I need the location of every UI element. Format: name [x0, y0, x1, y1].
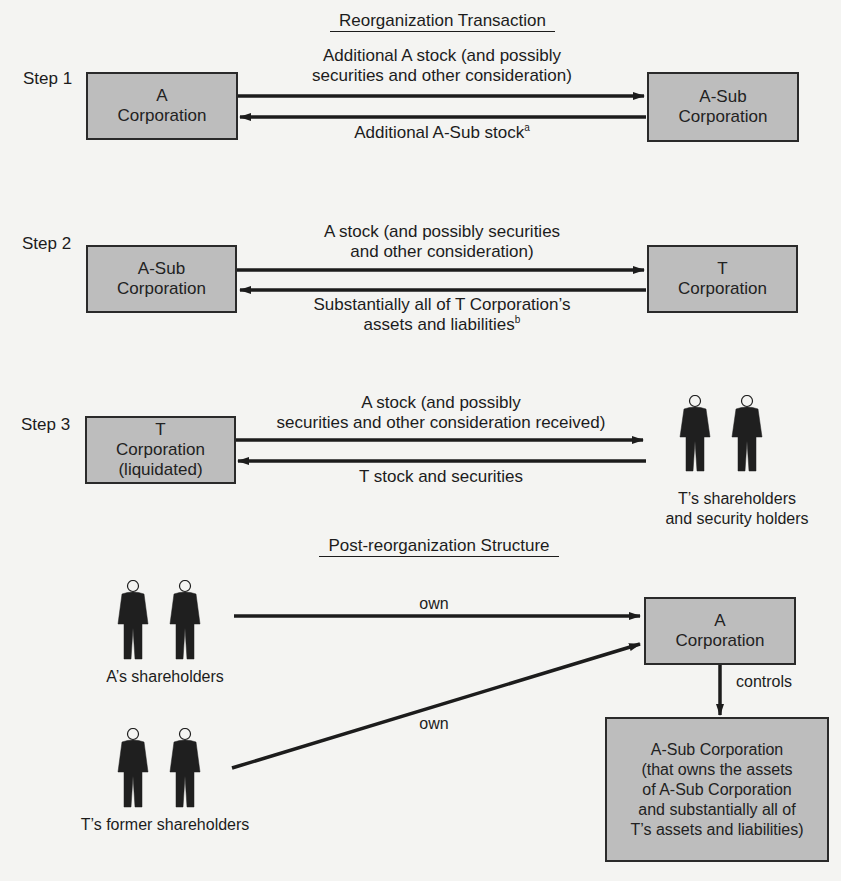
box-line: Corporation	[678, 279, 767, 299]
label-text: Additional A-Sub stock	[354, 123, 524, 142]
post-a-corporation-box: ACorporation	[644, 597, 796, 665]
box-line: A-Sub	[117, 259, 206, 279]
step1-bottom-arrow-label: Additional A-Sub stocka	[238, 123, 646, 143]
box-line: and substantially all of	[630, 800, 803, 820]
t-shareholders-caption: T’s shareholders and security holders	[637, 489, 837, 529]
step-2-label: Step 2	[22, 234, 71, 254]
caption-line: and security holders	[637, 509, 837, 529]
heading-post-reorganization-structure: Post-reorganization Structure	[319, 536, 559, 557]
box-line: T	[116, 420, 205, 440]
t-former-shareholders-caption: T’s former shareholders	[55, 815, 275, 835]
box-line: A-Sub	[679, 87, 768, 107]
step3-top-arrow-label: A stock (and possibly securities and oth…	[236, 393, 646, 433]
footnote-marker: b	[515, 314, 521, 325]
step1-a-corporation-box: ACorporation	[86, 72, 238, 140]
box-line: Corporation	[676, 631, 765, 651]
box-line: Corporation	[679, 107, 768, 127]
label-text: assets and liabilities	[364, 315, 515, 334]
post-a-sub-corporation-box: A-Sub Corporation (that owns the assets …	[605, 717, 829, 862]
step2-top-arrow-label: A stock (and possibly securities and oth…	[238, 222, 646, 262]
step3-bottom-arrow-label: T stock and securities	[236, 467, 646, 487]
step2-a-sub-corporation-box: A-SubCorporation	[86, 245, 237, 313]
t-shareholders-people-icon	[672, 395, 782, 475]
caption-line: T’s shareholders	[637, 489, 837, 509]
a-shareholders-caption: A’s shareholders	[80, 667, 250, 687]
label-text: T stock and securities	[359, 467, 523, 486]
step3-t-corporation-liquidated-box: TCorporation(liquidated)	[85, 416, 236, 484]
step2-bottom-arrow-label: Substantially all of T Corporation’s ass…	[238, 295, 646, 335]
label-line: Substantially all of T Corporation’s	[238, 295, 646, 315]
label-line: securities and other consideration)	[238, 66, 646, 86]
box-line: A-Sub Corporation	[630, 740, 803, 760]
step1-a-sub-corporation-box: A-SubCorporation	[647, 72, 799, 142]
step-1-label: Step 1	[23, 69, 72, 89]
label-line: A stock (and possibly securities	[238, 222, 646, 242]
box-line: T	[678, 259, 767, 279]
footnote-marker: a	[524, 122, 530, 133]
step1-top-arrow-label: Additional A stock (and possibly securit…	[238, 46, 646, 86]
arrow-own-bottom	[232, 644, 640, 768]
step-3-label: Step 3	[21, 415, 70, 435]
heading-reorganization-transaction: Reorganization Transaction	[330, 11, 555, 32]
box-line: A	[676, 611, 765, 631]
box-line: of A-Sub Corporation	[630, 780, 803, 800]
box-line: (that owns the assets	[630, 760, 803, 780]
box-line: Corporation	[117, 279, 206, 299]
box-line: A	[118, 86, 207, 106]
controls-label: controls	[736, 672, 806, 692]
label-line: securities and other consideration recei…	[236, 413, 646, 433]
t-former-shareholders-people-icon	[110, 728, 220, 810]
a-shareholders-people-icon	[110, 580, 220, 662]
box-line: Corporation	[116, 440, 205, 460]
step2-t-corporation-box: TCorporation	[647, 245, 798, 313]
label-line: A stock (and possibly	[236, 393, 646, 413]
box-line: Corporation	[118, 106, 207, 126]
own-label-top: own	[414, 594, 454, 614]
box-line: T’s assets and liabilities)	[630, 820, 803, 840]
label-line: and other consideration)	[238, 242, 646, 262]
own-label-bottom: own	[414, 714, 454, 734]
box-line: (liquidated)	[116, 460, 205, 480]
label-line: Additional A stock (and possibly	[238, 46, 646, 66]
